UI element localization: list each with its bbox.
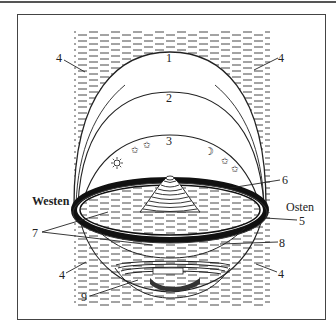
label-5: 5 — [299, 214, 305, 228]
label-7: 7 — [32, 226, 38, 240]
direction-west: Westen — [32, 194, 70, 208]
star-icon: ✩ — [131, 145, 139, 155]
direction-east: Osten — [286, 200, 314, 214]
cosmology-diagram: ✩ ✩ ☽ ✩ ✩ — [0, 0, 336, 334]
label-2: 2 — [166, 91, 172, 105]
label-4-top-right: 4 — [278, 51, 284, 65]
label-9: 9 — [81, 290, 87, 304]
label-4-bottom-left: 4 — [59, 268, 65, 282]
star-icon: ✩ — [143, 140, 151, 150]
label-3: 3 — [166, 134, 172, 148]
label-1: 1 — [166, 51, 172, 65]
label-6: 6 — [282, 173, 288, 187]
label-4-top-left: 4 — [56, 51, 62, 65]
star-icon: ✩ — [221, 156, 229, 166]
moon-icon: ☽ — [204, 145, 214, 158]
star-icon: ✩ — [231, 164, 239, 174]
label-4-bottom-right: 4 — [278, 267, 284, 281]
label-8: 8 — [279, 236, 285, 250]
